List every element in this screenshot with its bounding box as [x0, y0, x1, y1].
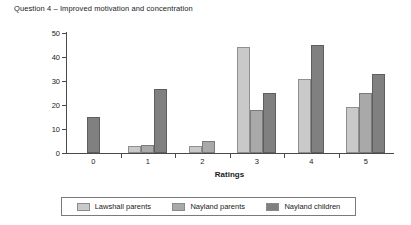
bar — [250, 110, 263, 153]
legend-item: Nayland parents — [172, 202, 245, 211]
bar — [141, 145, 154, 153]
chart-container: Question 4 – Improved motivation and con… — [0, 0, 411, 225]
legend-item: Nayland children — [266, 202, 340, 211]
bar — [189, 146, 202, 153]
legend-swatch — [77, 203, 90, 211]
bar-group — [230, 33, 285, 153]
legend-swatch — [172, 203, 185, 211]
bar — [372, 74, 385, 153]
bar-group — [339, 33, 394, 153]
y-axis-tick-label: 20 — [52, 101, 60, 110]
y-axis-tick-label: 30 — [52, 77, 60, 86]
bar — [202, 141, 215, 153]
y-axis-tick-label: 10 — [52, 125, 60, 134]
bar — [87, 117, 100, 153]
bar-groups — [66, 33, 393, 153]
y-axis-tick-mark — [62, 153, 66, 154]
x-axis-tick-label: 5 — [339, 157, 394, 166]
bar-group — [175, 33, 230, 153]
x-axis-tick-label: 0 — [66, 157, 121, 166]
x-axis-tick-label: 3 — [230, 157, 285, 166]
plot-area: 01020304050 — [66, 33, 393, 153]
legend-label: Lawshall parents — [95, 202, 151, 211]
x-axis-tick-label: 1 — [121, 157, 176, 166]
bar — [263, 93, 276, 153]
y-axis-tick-label: 50 — [52, 29, 60, 38]
x-axis-title: Ratings — [66, 170, 393, 179]
y-axis-tick-label: 0 — [56, 149, 60, 158]
legend-label: Nayland parents — [190, 202, 245, 211]
chart-legend: Lawshall parentsNayland parentsNayland c… — [61, 197, 356, 216]
bar — [128, 146, 141, 153]
bar-group — [121, 33, 176, 153]
x-axis-tick-label: 4 — [284, 157, 339, 166]
chart-title: Question 4 – Improved motivation and con… — [14, 4, 193, 13]
bar — [298, 79, 311, 153]
legend-label: Nayland children — [284, 202, 340, 211]
bar-group — [284, 33, 339, 153]
bar — [154, 89, 167, 153]
bar-group — [66, 33, 121, 153]
x-axis-tick-label: 2 — [175, 157, 230, 166]
bar — [237, 47, 250, 153]
bar — [359, 93, 372, 153]
x-axis-tick-labels: 012345 — [66, 157, 393, 166]
bar — [311, 45, 324, 153]
y-axis-tick-label: 40 — [52, 53, 60, 62]
legend-item: Lawshall parents — [77, 202, 151, 211]
bar — [346, 107, 359, 153]
legend-swatch — [266, 203, 279, 211]
